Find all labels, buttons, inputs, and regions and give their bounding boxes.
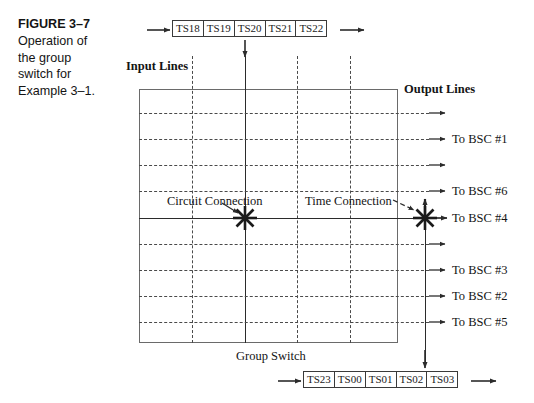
time-connection-leader-icon [393, 200, 414, 210]
figure-root: FIGURE 3–7 Operation of the group switch… [0, 0, 534, 403]
circuit-connection-leader-icon [222, 203, 238, 213]
circuit-connection-marker-icon [233, 206, 257, 230]
diagram-arrow-overlay [0, 0, 534, 403]
